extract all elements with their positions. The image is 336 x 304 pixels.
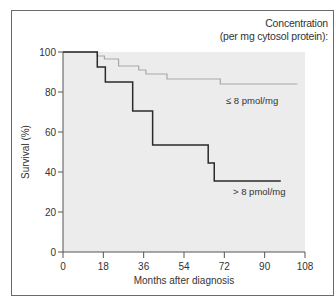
series-label-high: > 8 pmol/mg bbox=[233, 186, 286, 197]
x-tick-label: 108 bbox=[297, 261, 314, 272]
x-tick-label: 54 bbox=[178, 261, 190, 272]
x-tick-label: 18 bbox=[98, 261, 110, 272]
plot-area bbox=[63, 52, 305, 252]
y-tick-label: 80 bbox=[45, 87, 57, 98]
x-tick-label: 36 bbox=[138, 261, 150, 272]
survival-chart: 02040608010001836547290108 ≤ 8 pmol/mg >… bbox=[0, 0, 336, 304]
y-axis-title: Survival (%) bbox=[20, 125, 31, 179]
x-tick-label: 90 bbox=[259, 261, 271, 272]
series-label-low: ≤ 8 pmol/mg bbox=[226, 95, 278, 106]
y-tick-label: 0 bbox=[50, 247, 56, 258]
y-tick-label: 60 bbox=[45, 127, 57, 138]
x-axis-title: Months after diagnosis bbox=[134, 275, 235, 286]
y-tick-label: 20 bbox=[45, 207, 57, 218]
y-tick-label: 100 bbox=[39, 47, 56, 58]
y-tick-label: 40 bbox=[45, 167, 57, 178]
x-tick-label: 72 bbox=[219, 261, 231, 272]
x-tick-label: 0 bbox=[60, 261, 66, 272]
